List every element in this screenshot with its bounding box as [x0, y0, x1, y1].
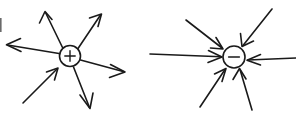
arrow-upper-left-inward — [186, 20, 223, 49]
arrow-upper-right-outward — [78, 14, 102, 49]
arrow-left-outward — [7, 39, 60, 54]
arrow-lower-left-inward-neg — [200, 69, 226, 108]
arrow-left-inward — [150, 51, 222, 63]
arrow-upper-left-outward — [40, 12, 63, 48]
electric-field-figure — [0, 0, 296, 116]
arrow-lower-right-outward — [74, 67, 94, 109]
negative-charge-symbol — [223, 46, 245, 68]
negative-charge-diagram — [150, 9, 296, 110]
arrow-upper-right-inward — [241, 9, 273, 47]
field-line-canvas — [0, 0, 296, 116]
arrow-lower-left-inward — [23, 68, 58, 103]
arrow-right-inward — [247, 55, 296, 66]
arrow-lower-right-inward-neg — [233, 69, 252, 111]
positive-charge-diagram — [7, 12, 126, 109]
arrow-right-outward — [81, 60, 126, 78]
scan-edge-artifact — [0, 18, 2, 32]
positive-charge-symbol — [60, 46, 81, 67]
